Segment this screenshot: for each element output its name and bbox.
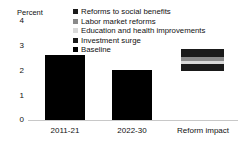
y-tick-label-3: 3 (12, 42, 24, 50)
bar-2022-30 (112, 70, 152, 120)
y-tick-label-0: 0 (12, 116, 24, 124)
legend-swatch-icon-investment-surge (73, 38, 78, 43)
legend-item-baseline: Baseline (73, 45, 205, 55)
legend-swatch-icon-reforms-to-social-benefits (73, 9, 78, 14)
legend-label-investment-surge: Investment surge (81, 36, 141, 45)
y-tick-label-4: 4 (12, 17, 24, 25)
bar-2011-21 (45, 55, 85, 120)
y-tick-label-1: 1 (12, 92, 24, 100)
legend: Reforms to social benefits Labor market … (73, 7, 205, 55)
legend-swatch-icon-labor-market-reforms (73, 19, 78, 24)
legend-item-reforms-to-social-benefits: Reforms to social benefits (73, 7, 205, 17)
y-tick-label-2: 2 (12, 67, 24, 75)
x-axis-label-reform-impact: Reform impact (166, 126, 240, 135)
legend-item-labor-market-reforms: Labor market reforms (73, 17, 205, 27)
x-axis-label-2022-30: 2022-30 (102, 126, 162, 135)
x-axis-label-2011-21: 2011-21 (35, 126, 95, 135)
legend-label-education-and-health-improvements: Education and health improvements (81, 26, 205, 35)
legend-swatch-icon-baseline (73, 47, 78, 52)
legend-label-baseline: Baseline (81, 45, 111, 54)
legend-item-investment-surge: Investment surge (73, 36, 205, 46)
legend-item-education-and-health-improvements: Education and health improvements (73, 26, 205, 36)
chart-container: Percent 4 3 2 1 0 2011-21 2022-30 Reform… (0, 0, 244, 148)
legend-label-labor-market-reforms: Labor market reforms (81, 17, 156, 26)
stack-segment-investment-surge (181, 64, 224, 71)
x-axis-line (28, 120, 238, 121)
legend-label-reforms-to-social-benefits: Reforms to social benefits (81, 7, 171, 16)
legend-swatch-icon-education-and-health-improvements (73, 28, 78, 33)
